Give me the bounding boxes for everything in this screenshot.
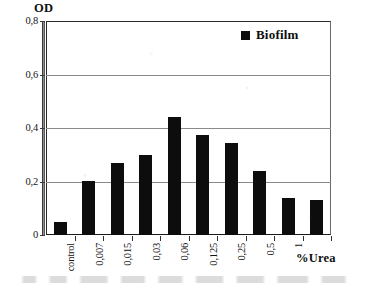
y-tick-label: 0,6 (4, 69, 38, 80)
x-axis-title: %Urea (296, 251, 336, 266)
x-tick-mark (303, 236, 304, 241)
y-tick-label-wrap: 0 (4, 229, 38, 241)
x-axis-label-0-015: 0,015 (122, 243, 133, 266)
y-tick-label: 0,8 (4, 15, 38, 26)
y-tick-label: 0 (4, 229, 38, 240)
bar-1 (282, 198, 295, 235)
y-tick-label-wrap: 0,6 (4, 69, 38, 81)
y-tick-label-wrap: 0,4 (4, 122, 38, 134)
bar-0-007 (82, 181, 95, 235)
y-axis-title: OD (34, 1, 53, 16)
x-tick-mark (274, 236, 275, 241)
bar-0-06 (168, 117, 181, 235)
bar-control (54, 222, 67, 235)
x-axis-label-0-125: 0,125 (208, 243, 219, 266)
legend-label-biofilm: Biofilm (256, 27, 299, 43)
x-tick-mark (75, 236, 76, 241)
legend-swatch-square-icon (241, 31, 250, 40)
x-axis-label-0-03: 0,03 (151, 243, 162, 261)
x-tick-mark (246, 236, 247, 241)
x-tick-mark (132, 236, 133, 241)
y-tick-mark (40, 182, 45, 183)
x-axis-label-0-06: 0,06 (179, 243, 190, 261)
x-axis-label-control: control (65, 243, 76, 271)
y-tick-label-wrap: 0,8 (4, 15, 38, 27)
x-axis-label-0-007: 0,007 (94, 243, 105, 266)
x-tick-mark (160, 236, 161, 241)
y-tick-mark (40, 128, 45, 129)
y-tick-label-wrap: 0,2 (4, 176, 38, 188)
y-tick-mark (40, 235, 45, 236)
bar-0-25 (225, 143, 238, 235)
y-tick-mark (40, 75, 45, 76)
x-tick-mark (103, 236, 104, 241)
y-tick-label: 0,4 (4, 122, 38, 133)
x-axis-label-1: 1 (293, 243, 304, 248)
bar-0-125 (196, 135, 209, 235)
gridline-0-4 (46, 128, 331, 129)
bar-chart-figure: OD 0,80,60,40,20 control0,0070,0150,030,… (0, 0, 369, 283)
x-tick-mark (331, 236, 332, 241)
chart-legend: Biofilm (241, 27, 299, 43)
x-tick-mark (189, 236, 190, 241)
bar-0-015 (111, 163, 124, 235)
x-axis-label-0-5: 0,5 (265, 243, 276, 256)
bar-0-5 (253, 171, 266, 235)
x-tick-mark (217, 236, 218, 241)
y-tick-label: 0,2 (4, 176, 38, 187)
x-axis-label-0-25: 0,25 (236, 243, 247, 261)
gridline-0-6 (46, 75, 331, 76)
bar-0-03 (139, 155, 152, 235)
bar-unlabeled (310, 200, 323, 235)
y-tick-mark (40, 21, 45, 22)
caption-smudge (14, 276, 354, 283)
